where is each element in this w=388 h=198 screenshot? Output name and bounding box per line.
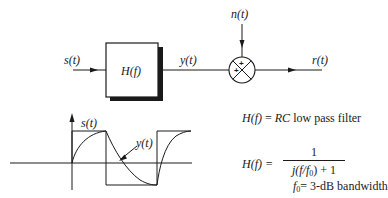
input-signal-line xyxy=(73,68,106,73)
equation-equals: = xyxy=(262,111,275,125)
bandwidth-definition: f0= 3-dB bandwidth xyxy=(293,180,388,194)
summer-plus-sign-top: + xyxy=(239,60,244,68)
filter-output-label: y(t) xyxy=(180,54,197,66)
summer-plus-sign-left: + xyxy=(234,67,239,75)
waveform-input-label: s(t) xyxy=(81,117,97,129)
filter-transfer-label: H(f) xyxy=(121,65,141,77)
output-signal-line xyxy=(255,68,322,73)
input-signal-label: s(t) xyxy=(64,54,80,66)
equation-lhs: H(f) xyxy=(242,111,262,125)
transfer-function-lhs: H(f) = xyxy=(242,158,276,170)
equation-rc: RC xyxy=(275,111,290,125)
noise-input-arrow xyxy=(240,24,245,57)
transfer-function-fraction: 1 j(f/f0) + 1 xyxy=(283,145,345,179)
waveform-output-label: y(t) xyxy=(136,137,153,149)
fraction-bar xyxy=(283,160,345,161)
fraction-numerator: 1 xyxy=(283,145,345,160)
denominator-post: ) + 1 xyxy=(313,163,336,177)
output-pointer-arrow xyxy=(119,146,137,161)
output-signal-label: r(t) xyxy=(312,54,328,66)
bandwidth-text: = 3-dB bandwidth xyxy=(300,179,387,193)
filtered-output-curve xyxy=(72,131,191,185)
equation-filter-type: low pass filter xyxy=(290,111,361,125)
noise-signal-label: n(t) xyxy=(231,8,248,20)
transfer-function-lhs-text: H(f) = xyxy=(242,157,276,171)
filter-type-equation: H(f) = RC low pass filter xyxy=(242,112,361,124)
fraction-denominator: j(f/f0) + 1 xyxy=(283,163,345,178)
denominator-pre: j(f/f xyxy=(292,163,309,177)
